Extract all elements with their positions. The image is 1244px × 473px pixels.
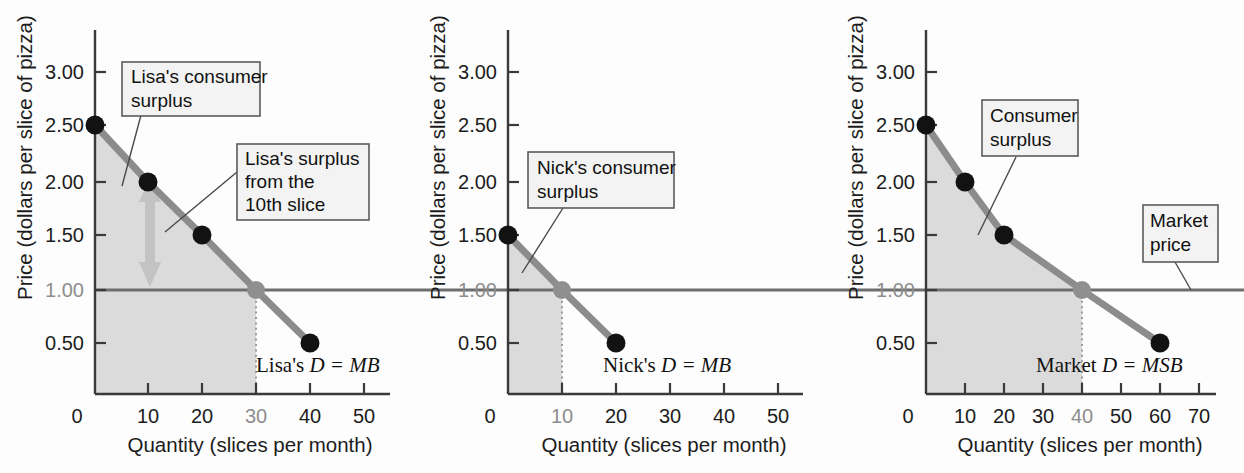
data-point-0-250 (917, 116, 936, 135)
x-tick-0: 0 (484, 405, 495, 427)
x-axis-title: Quantity (slices per month) (542, 433, 787, 456)
x-axis-tick-labels: 0 10 20 30 40 50 60 70 (902, 405, 1210, 427)
x-axis-tick-labels: 0 10 20 30 40 50 (484, 405, 789, 427)
y-tick-250: 2.50 (458, 114, 497, 136)
y-tick-050: 0.50 (458, 332, 497, 354)
x-tick-30: 30 (1032, 405, 1054, 427)
y-tick-250: 2.50 (876, 114, 915, 136)
y-tick-150: 1.50 (876, 224, 915, 246)
data-point-equilibrium-10-100 (553, 281, 571, 299)
data-point-20-050 (607, 334, 626, 353)
y-tick-150: 1.50 (45, 224, 84, 246)
data-point-0-250 (86, 116, 105, 135)
y-axis-title: Price (dollars per slice of pizza) (844, 15, 867, 300)
y-axis-tick-labels: 3.00 2.50 2.00 1.50 1.00 0.50 (458, 61, 497, 354)
x-axis-title: Quantity (slices per month) (958, 433, 1203, 456)
callout-line-1: Consumer (990, 105, 1078, 126)
callout-line-1: Lisa's consumer (131, 66, 268, 87)
y-tick-050: 0.50 (45, 332, 84, 354)
market-price-line-2: price (1150, 234, 1191, 255)
x-tick-10: 10 (551, 405, 573, 427)
y-tick-050: 0.50 (876, 332, 915, 354)
y-axis-tick-labels: 3.00 2.50 2.00 1.50 1.00 0.50 (45, 61, 84, 354)
lisa-consumer-surplus-region (95, 125, 256, 394)
x-tick-30: 30 (245, 405, 267, 427)
data-point-20-150 (995, 226, 1014, 245)
y-tick-300: 3.00 (458, 61, 497, 83)
x-tick-70: 70 (1188, 405, 1210, 427)
y-axis-tick-labels: 3.00 2.50 2.00 1.50 1.00 0.50 (876, 61, 915, 354)
market-demand-chart: 3.00 2.50 2.00 1.50 1.00 0.50 0 10 20 (830, 0, 1244, 473)
y-tick-150: 1.50 (458, 224, 497, 246)
callout-line-2: surplus (537, 181, 598, 202)
data-point-60-050 (1151, 334, 1170, 353)
data-point-10-200 (139, 173, 158, 192)
data-point-10-200 (956, 173, 975, 192)
data-point-equilibrium-40-100 (1073, 281, 1091, 299)
x-tick-0: 0 (902, 405, 913, 427)
x-tick-50: 50 (1110, 405, 1132, 427)
x-tick-0: 0 (71, 405, 82, 427)
data-point-equilibrium-30-100 (247, 281, 265, 299)
x-tick-60: 60 (1149, 405, 1171, 427)
x-tick-40: 40 (1071, 405, 1093, 427)
y-tick-100: 1.00 (876, 279, 915, 301)
x-axis-tick-labels: 0 10 20 30 40 50 (71, 405, 375, 427)
callout2-line-1: Lisa's surplus (245, 148, 360, 169)
y-axis-title: Price (dollars per slice of pizza) (426, 15, 449, 300)
market-demand-curve-label: Market D = MSB (1036, 353, 1183, 377)
x-tick-50: 50 (767, 405, 789, 427)
callout-line-1: Nick's consumer (537, 157, 676, 178)
y-tick-250: 2.50 (45, 114, 84, 136)
nick-demand-chart: 3.00 2.50 2.00 1.50 1.00 0.50 0 10 20 30… (415, 0, 830, 473)
data-point-40-050 (301, 334, 320, 353)
callout-line-2: surplus (990, 129, 1051, 150)
x-tick-40: 40 (713, 405, 735, 427)
x-tick-10: 10 (954, 405, 976, 427)
y-tick-300: 3.00 (45, 61, 84, 83)
y-tick-200: 2.00 (458, 171, 497, 193)
y-tick-200: 2.00 (876, 171, 915, 193)
panel-lisa: 3.00 2.50 2.00 1.50 1.00 0.50 0 10 20 30 (0, 0, 415, 473)
callout2-line-2: from the (245, 171, 315, 192)
x-tick-50: 50 (353, 405, 375, 427)
nick-demand-curve-label: Nick's D = MB (603, 353, 731, 377)
panel-nick: 3.00 2.50 2.00 1.50 1.00 0.50 0 10 20 30… (415, 0, 830, 473)
x-tick-40: 40 (299, 405, 321, 427)
data-point-20-150 (193, 226, 212, 245)
panel-market: 3.00 2.50 2.00 1.50 1.00 0.50 0 10 20 (830, 0, 1244, 473)
x-tick-20: 20 (993, 405, 1015, 427)
callout2-line-3: 10th slice (245, 194, 325, 215)
x-tick-20: 20 (191, 405, 213, 427)
callout-market-price: Market price (1143, 205, 1218, 290)
data-point-0-150 (499, 226, 518, 245)
consumer-surplus-figure: 3.00 2.50 2.00 1.50 1.00 0.50 0 10 20 30 (0, 0, 1244, 473)
callout-lisa-surplus-10th-slice: Lisa's surplus from the 10th slice (165, 144, 369, 232)
x-axis-title: Quantity (slices per month) (128, 433, 373, 456)
callout-nick-consumer-surplus: Nick's consumer surplus (522, 152, 676, 273)
lisa-demand-chart: 3.00 2.50 2.00 1.50 1.00 0.50 0 10 20 30 (0, 0, 415, 473)
x-tick-10: 10 (137, 405, 159, 427)
y-tick-100: 1.00 (458, 279, 497, 301)
y-axis-title: Price (dollars per slice of pizza) (13, 15, 36, 300)
x-axis-ticks (562, 383, 778, 394)
y-tick-100: 1.00 (45, 279, 84, 301)
lisa-demand-curve-label: Lisa's D = MB (256, 353, 380, 377)
callout-line-2: surplus (131, 90, 192, 111)
market-price-line-1: Market (1150, 210, 1209, 231)
y-tick-300: 3.00 (876, 61, 915, 83)
y-tick-200: 2.00 (45, 171, 84, 193)
x-tick-30: 30 (659, 405, 681, 427)
x-tick-20: 20 (605, 405, 627, 427)
